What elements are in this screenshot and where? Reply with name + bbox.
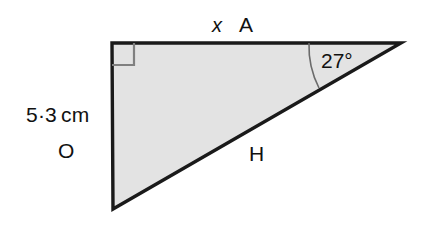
side-length-value: 5·3 <box>26 103 57 126</box>
triangle-shape <box>112 43 401 209</box>
side-length-label: 5·3cm <box>26 104 89 125</box>
angle-measure-label: 27° <box>321 50 353 71</box>
unknown-length-label: x <box>212 15 222 35</box>
trigonometry-figure: 5·3cm O x A 27° H <box>0 0 424 227</box>
opposite-side-label: O <box>58 140 74 161</box>
hypotenuse-side-label: H <box>249 143 264 164</box>
adjacent-side-label: A <box>239 14 253 35</box>
side-length-unit: cm <box>61 103 89 126</box>
